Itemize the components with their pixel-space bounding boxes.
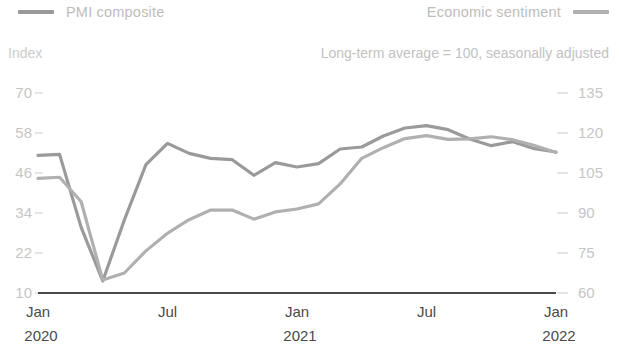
right-axis-tick-label: 90 — [578, 204, 595, 221]
right-axis-tick-label: 60 — [578, 284, 595, 301]
right-axis-tick-label: 75 — [578, 244, 595, 261]
series-lines — [38, 126, 556, 281]
x-axis-year-label: 2021 — [283, 327, 316, 344]
left-axis-tick-label: 70 — [15, 84, 32, 101]
left-axis-tick-label: 22 — [15, 244, 32, 261]
right-axis-tick-label: 135 — [578, 84, 603, 101]
left-axis-tick-label: 10 — [15, 284, 32, 301]
chart-canvas: 705846342210 135120105907560 Jan2020JulJ… — [0, 0, 619, 356]
plot-area: 705846342210 135120105907560 Jan2020JulJ… — [0, 0, 619, 356]
series-line-pmi-composite — [38, 126, 556, 281]
x-axis-tick-label: Jul — [417, 303, 436, 320]
right-axis-tick-label: 120 — [578, 124, 603, 141]
x-axis-tick-label: Jul — [158, 303, 177, 320]
x-axis-year-label: 2020 — [24, 327, 57, 344]
right-axis-ticks: 135120105907560 — [557, 84, 603, 301]
x-axis-year-label: 2022 — [542, 327, 575, 344]
right-axis-tick-label: 105 — [578, 164, 603, 181]
left-axis-tick-label: 46 — [15, 164, 32, 181]
series-line-economic-sentiment — [38, 136, 556, 280]
x-axis-tick-label: Jan — [544, 303, 568, 320]
left-axis-tick-label: 34 — [15, 204, 32, 221]
x-axis-ticks: Jan2020JulJan2021JulJan2022 — [24, 303, 575, 344]
x-axis-tick-label: Jan — [26, 303, 50, 320]
economic-indicators-chart: PMI composite Economic sentiment Index L… — [0, 0, 619, 356]
x-axis-tick-label: Jan — [285, 303, 309, 320]
left-axis-tick-label: 58 — [15, 124, 32, 141]
left-axis-ticks: 705846342210 — [15, 84, 43, 301]
